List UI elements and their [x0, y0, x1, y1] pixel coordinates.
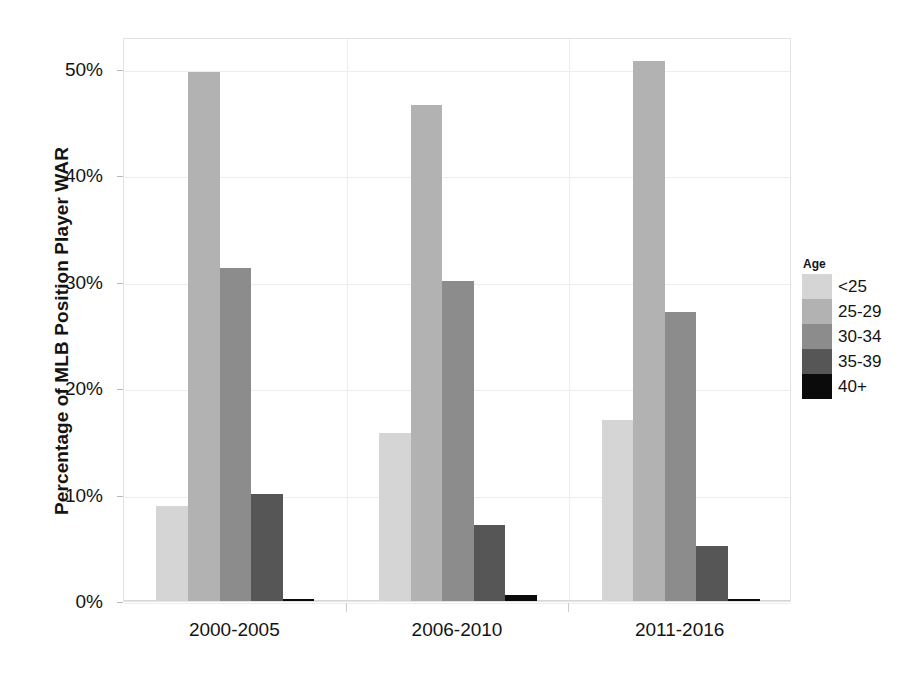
legend-item-label: 35-39	[838, 353, 881, 370]
y-axis-tick-label: 30%	[13, 272, 113, 294]
bar[interactable]	[696, 546, 728, 601]
x-axis-tick-label: 2000-2005	[189, 619, 280, 641]
bar[interactable]	[251, 494, 283, 601]
bar[interactable]	[442, 281, 474, 601]
x-axis-tick-mark	[568, 603, 569, 612]
y-axis-tick-label: 40%	[13, 165, 113, 187]
legend-swatch	[802, 274, 832, 299]
legend-swatch	[802, 349, 832, 374]
plot-area	[123, 38, 791, 602]
legend-item[interactable]: 35-39	[802, 349, 881, 374]
y-axis-tick-label: 10%	[13, 485, 113, 507]
legend-title: Age	[803, 258, 881, 271]
legend-item-label: 25-29	[838, 303, 881, 320]
y-axis-tick-label: 0%	[13, 591, 113, 613]
bar[interactable]	[220, 268, 252, 601]
y-axis-tick-label: 20%	[13, 378, 113, 400]
legend-item-label: 40+	[838, 378, 867, 395]
x-axis-tick-label: 2006-2010	[412, 619, 503, 641]
legend-swatch	[802, 374, 832, 399]
bar[interactable]	[505, 595, 537, 601]
y-axis-tick-mark	[117, 602, 123, 603]
bar[interactable]	[379, 433, 411, 601]
bar[interactable]	[474, 525, 506, 601]
x-axis-tick-label: 2011-2016	[635, 619, 724, 641]
legend-items: <2525-2930-3435-3940+	[802, 274, 881, 399]
y-axis-tick-label: 50%	[13, 59, 113, 81]
bars-layer	[124, 39, 790, 601]
legend-item[interactable]: <25	[802, 274, 881, 299]
bar[interactable]	[728, 599, 760, 601]
legend-item[interactable]: 40+	[802, 374, 881, 399]
legend-item-label: <25	[838, 278, 867, 295]
bar[interactable]	[633, 61, 665, 601]
gridline-horizontal	[124, 603, 790, 604]
legend-item[interactable]: 25-29	[802, 299, 881, 324]
legend-swatch	[802, 324, 832, 349]
legend-item-label: 30-34	[838, 328, 881, 345]
x-axis-tick-mark	[346, 603, 347, 612]
bar[interactable]	[156, 506, 188, 601]
bar[interactable]	[188, 72, 220, 601]
bar[interactable]	[665, 312, 697, 601]
bar[interactable]	[411, 105, 443, 601]
legend-swatch	[802, 299, 832, 324]
bar[interactable]	[602, 420, 634, 601]
bar[interactable]	[283, 599, 315, 601]
bar-chart-figure: Percentage of MLB Position Player WAR 0%…	[0, 0, 904, 687]
legend-item[interactable]: 30-34	[802, 324, 881, 349]
legend: Age <2525-2930-3435-3940+	[802, 258, 881, 399]
